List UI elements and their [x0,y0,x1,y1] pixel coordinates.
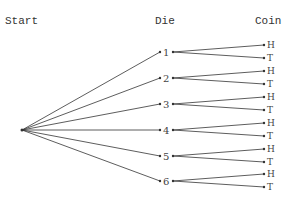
branches: 1HT2HT3HT4HT5HT6HT [22,40,275,192]
coin-node-dot [263,96,265,98]
branch-die-3-to-T [173,104,264,110]
coin-label-T: T [267,105,273,115]
branch-start-to-die-6 [22,130,160,181]
die-node-dot [159,77,161,79]
coin-label-T: T [267,53,273,63]
die-node-dot [159,103,161,105]
branch-die-1-to-T [173,52,264,58]
coin-label-T: T [267,157,273,167]
coin-label-H: H [267,169,275,179]
coin-node-dot [263,109,265,111]
coin-node-dot [263,70,265,72]
branch-start-to-die-5 [22,130,160,156]
die-label-2: 2 [163,73,169,84]
die-label-3: 3 [163,99,169,110]
die-label-6: 6 [163,176,169,187]
branch-start-to-die-1 [22,52,160,130]
coin-label-H: H [267,118,275,128]
coin-node-dot [263,57,265,59]
coin-node-dot [263,161,265,163]
header-start: Start [5,15,38,27]
branch-die-5-to-T [173,156,264,162]
tree-diagram: Start Die Coin 1HT2HT3HT4HT5HT6HT [0,0,293,199]
branch-die-1-to-H [173,45,264,52]
branch-die-2-to-T [173,78,264,84]
coin-label-H: H [267,92,275,102]
coin-label-H: H [267,40,275,50]
branch-die-4-to-H [173,123,264,130]
coin-node-dot [263,122,265,124]
coin-label-T: T [267,79,273,89]
branch-die-2-to-H [173,71,264,78]
coin-label-H: H [267,144,275,154]
coin-node-dot [263,173,265,175]
die-label-5: 5 [163,151,169,162]
coin-node-dot [263,83,265,85]
header-die: Die [155,15,175,27]
die-node-dot [159,180,161,182]
die-node-dot [159,51,161,53]
branch-die-6-to-T [173,181,264,187]
die-node-dot [159,129,161,131]
branch-die-4-to-T [173,130,264,136]
header-coin: Coin [255,15,281,27]
coin-node-dot [263,135,265,137]
die-label-1: 1 [163,47,169,58]
die-label-4: 4 [163,125,169,136]
branch-die-5-to-H [173,149,264,156]
coin-node-dot [263,44,265,46]
coin-label-H: H [267,66,275,76]
branch-die-3-to-H [173,97,264,104]
coin-node-dot [263,186,265,188]
branch-die-6-to-H [173,174,264,181]
die-node-dot [159,155,161,157]
branch-start-to-die-2 [22,78,160,130]
branch-start-to-die-3 [22,104,160,130]
coin-label-T: T [267,182,273,192]
coin-node-dot [263,148,265,150]
coin-label-T: T [267,131,273,141]
